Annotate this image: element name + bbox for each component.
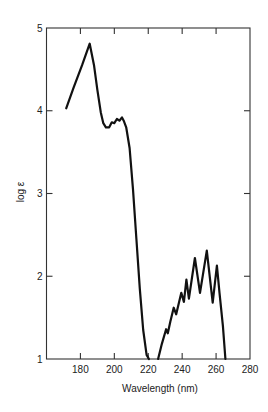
x-tick-label: 260: [208, 364, 225, 375]
spectrum-line-band-1: [66, 44, 149, 359]
x-tick-label: 200: [106, 364, 123, 375]
x-tick-label: 180: [72, 364, 89, 375]
y-axis-label: log ε: [15, 181, 26, 202]
uv-absorption-spectrum-chart: 180200220240260280 12345 Wavelength (nm)…: [0, 0, 268, 412]
spectrum-line-band-2: [158, 251, 225, 359]
y-tick-label: 5: [37, 23, 43, 34]
y-tick-label: 2: [37, 271, 43, 282]
y-tick-label: 1: [37, 354, 43, 365]
x-tick-labels: 180200220240260280: [72, 364, 259, 375]
y-tick-label: 3: [37, 188, 43, 199]
x-tick-label: 280: [242, 364, 259, 375]
x-tick-label: 220: [140, 364, 157, 375]
y-tick-labels: 12345: [37, 23, 43, 365]
x-axis-label: Wavelength (nm): [122, 383, 198, 394]
spectrum-curves: [66, 44, 225, 359]
y-tick-label: 4: [37, 105, 43, 116]
x-tick-label: 240: [174, 364, 191, 375]
